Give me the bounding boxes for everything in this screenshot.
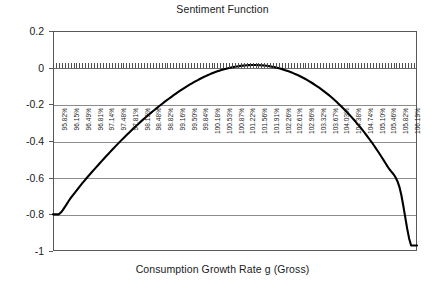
x-tick-label: 104.38% [355,108,362,134]
x-tick-label: 100.18% [214,108,221,134]
x-tick-label: 103.32% [320,108,327,134]
x-tick-label: 101.22% [249,108,256,134]
x-tick-label: 97.81% [132,108,139,130]
x-tick-label: 96.81% [97,108,104,130]
x-tick-label: 97.48% [120,108,127,130]
y-tick-label: -0.4 [26,136,44,146]
sentiment-function-chart: Sentiment Function 0.20-0.2-0.4-0.6-0.8-… [0,0,445,288]
x-tick-label: 105.10% [379,108,386,134]
x-tick-label: 105.82% [402,108,409,134]
x-tick-label: 104.74% [367,108,374,134]
x-tick-label: 98.82% [167,108,174,130]
x-tick-label: 96.49% [85,108,92,130]
x-tick-label: 102.26% [285,108,292,134]
x-tick-label: 101.91% [273,108,280,134]
y-tick-label: -0.2 [26,99,44,109]
x-tick-label: 102.61% [296,108,303,134]
x-axis-labels: 95.82%96.15%96.49%96.81%97.14%97.48%97.8… [53,68,417,112]
x-tick-label: 98.48% [155,108,162,130]
x-tick-label: 96.15% [73,108,80,130]
y-tick-mark [49,251,53,252]
x-tick-label: 99.50% [191,108,198,130]
x-tick-label: 100.53% [226,108,233,134]
y-tick-label: 0 [38,63,44,73]
x-tick-label: 104.03% [343,108,350,134]
x-tick-label: 103.67% [332,108,339,134]
chart-title: Sentiment Function [0,3,445,15]
x-tick-label: 106.19% [414,108,421,134]
x-axis-title: Consumption Growth Rate g (Gross) [0,263,445,275]
gridline [54,178,416,179]
x-tick-label: 97.14% [108,108,115,130]
x-tick-label: 101.56% [261,108,268,134]
x-tick-label: 95.82% [61,108,68,130]
y-tick-label: -1 [35,246,44,256]
x-tick-label: 98.15% [144,108,151,130]
y-tick-label: -0.6 [26,173,44,183]
y-axis-labels: 0.20-0.2-0.4-0.6-0.8-1 [0,31,48,251]
x-tick-label: 105.46% [390,108,397,134]
y-tick-label: -0.8 [26,209,44,219]
x-tick-label: 102.96% [308,108,315,134]
y-tick-label: 0.2 [29,26,44,36]
x-tick-label: 99.84% [202,108,209,130]
x-tick-label: 99.16% [179,108,186,130]
gridline [54,142,416,143]
gridline [54,215,416,216]
x-tick-label: 100.87% [238,108,245,134]
